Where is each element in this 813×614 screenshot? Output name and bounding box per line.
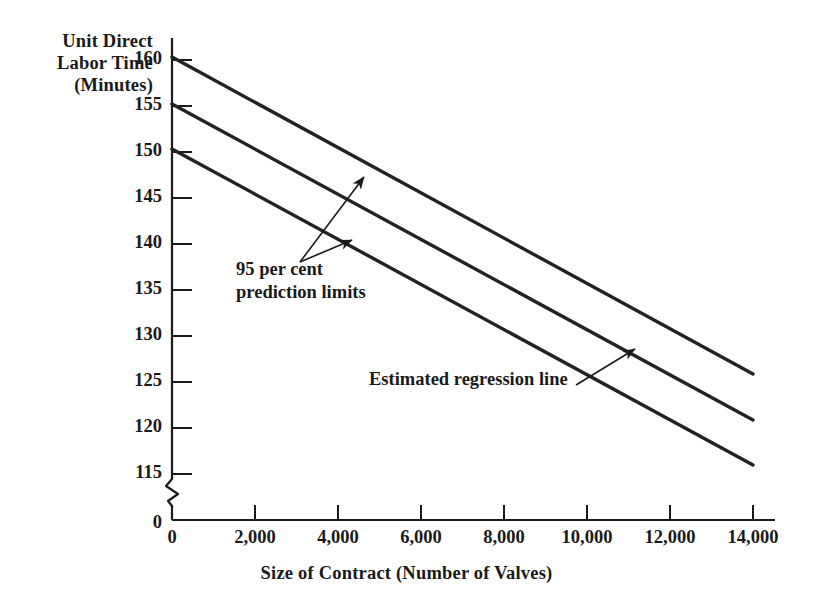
series-upper-prediction-limit bbox=[172, 57, 753, 374]
x-axis-ticks bbox=[255, 505, 753, 520]
plot-canvas bbox=[0, 0, 813, 614]
axes bbox=[172, 38, 775, 520]
y-axis-break-icon bbox=[166, 479, 179, 506]
series-lower-prediction-limit bbox=[172, 149, 753, 465]
data-lines bbox=[172, 57, 753, 465]
chart-figure: Unit Direct Labor Time (Minutes) Size of… bbox=[0, 0, 813, 614]
series-regression-line bbox=[172, 104, 753, 420]
annotation-regression-line-arrow bbox=[576, 349, 635, 385]
arrow-to-regression-line bbox=[576, 349, 635, 385]
y-axis-ticks bbox=[172, 60, 192, 474]
